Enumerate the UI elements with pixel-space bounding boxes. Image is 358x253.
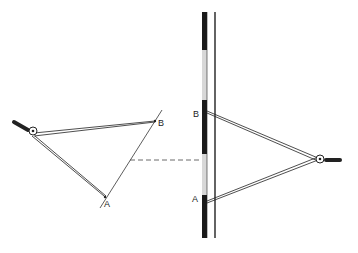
right-point-a-label: A: [192, 194, 198, 204]
left-point-a-label: A: [104, 199, 110, 209]
ruler: [202, 12, 215, 238]
left-point-b-marker: [154, 120, 156, 122]
right-point-b-label: B: [193, 109, 199, 119]
diagram-canvas: B A B A: [0, 0, 358, 253]
left-point-a-marker: [104, 196, 106, 198]
left-point-b-label: B: [158, 118, 164, 128]
left-compass-handle: [14, 122, 28, 130]
right-compass: [207, 111, 340, 203]
left-compass: [14, 120, 156, 198]
